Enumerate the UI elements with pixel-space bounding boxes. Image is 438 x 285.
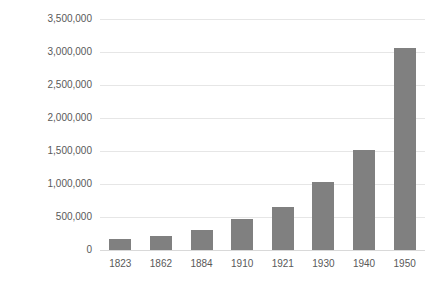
bar-slot <box>141 19 182 250</box>
bar <box>272 207 294 250</box>
bar <box>231 219 253 250</box>
x-axis-labels: 18231862188419101921193019401950 <box>100 258 425 270</box>
x-axis-tick-label: 1930 <box>303 258 344 270</box>
gridline <box>100 250 425 251</box>
bar-slot <box>222 19 263 250</box>
y-axis-tick-label: 3,500,000 <box>0 14 92 24</box>
y-axis-labels: 0500,0001,000,0001,500,0002,000,0002,500… <box>0 0 92 285</box>
bar-slot <box>384 19 425 250</box>
y-axis-tick-label: 0 <box>0 245 92 255</box>
y-axis-tick-label: 3,000,000 <box>0 47 92 57</box>
bar-series <box>100 19 425 250</box>
bar <box>394 48 416 250</box>
y-axis-tick-label: 1,000,000 <box>0 179 92 189</box>
plot-area <box>100 19 425 250</box>
y-axis-tick-label: 500,000 <box>0 212 92 222</box>
bar-slot <box>181 19 222 250</box>
bar <box>353 150 375 250</box>
bar-slot <box>344 19 385 250</box>
x-axis-tick-label: 1884 <box>181 258 222 270</box>
x-axis-tick-label: 1862 <box>141 258 182 270</box>
bar <box>150 236 172 250</box>
bar <box>312 182 334 250</box>
bar-chart: 0500,0001,000,0001,500,0002,000,0002,500… <box>0 0 438 285</box>
bar-slot <box>303 19 344 250</box>
y-axis-tick-label: 1,500,000 <box>0 146 92 156</box>
bar <box>109 239 131 250</box>
x-axis-tick-label: 1921 <box>263 258 304 270</box>
x-axis-tick-label: 1823 <box>100 258 141 270</box>
x-axis-tick-label: 1940 <box>344 258 385 270</box>
bar <box>191 230 213 250</box>
bar-slot <box>263 19 304 250</box>
y-axis-tick-label: 2,500,000 <box>0 80 92 90</box>
bar-slot <box>100 19 141 250</box>
x-axis-tick-label: 1910 <box>222 258 263 270</box>
y-axis-tick-label: 2,000,000 <box>0 113 92 123</box>
x-axis-tick-label: 1950 <box>384 258 425 270</box>
